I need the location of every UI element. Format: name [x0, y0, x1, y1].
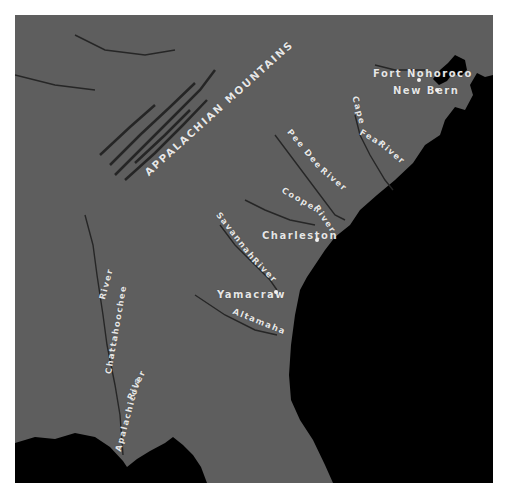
label-fort-nohoroco: Fort Nohoroco	[373, 68, 473, 79]
gulf-of-mexico	[15, 433, 207, 483]
label-charleston: Charleston	[262, 230, 338, 241]
marker-yamacraw	[274, 290, 278, 294]
map: APPALACHIAN MOUNTAINS Fort Nohoroco New …	[15, 15, 493, 483]
marker-fort-nohoroco	[417, 78, 421, 82]
marker-new-bern	[435, 88, 439, 92]
atlantic-ocean	[289, 73, 493, 483]
marker-charleston	[315, 238, 319, 242]
label-new-bern: New Bern	[393, 85, 459, 96]
